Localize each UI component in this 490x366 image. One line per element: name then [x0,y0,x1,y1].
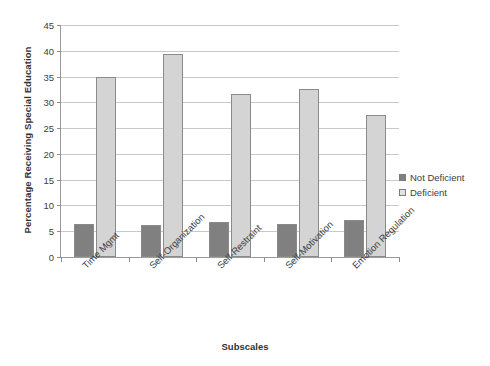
bar-chart-figure: Percentage Receiving Special Education 0… [0,0,490,366]
x-axis-tick-mark [399,257,400,262]
y-axis-tick-label: 30 [28,97,54,108]
y-axis-tick-label: 25 [28,123,54,134]
bar-group [264,25,332,257]
bars-layer [61,25,399,257]
x-axis-title: Subscales [0,341,490,352]
legend-item[interactable]: Not Deficient [399,170,485,185]
y-axis-tick-label: 20 [28,148,54,159]
y-axis-tick-label: 45 [28,20,54,31]
legend-label: Deficient [410,187,447,198]
y-axis-tick-label: 40 [28,45,54,56]
legend-label: Not Deficient [410,172,464,183]
y-axis-tick-label: 15 [28,174,54,185]
bar [163,54,183,257]
legend-swatch-icon [399,174,406,181]
bar-group [196,25,264,257]
y-axis-tick-label: 10 [28,200,54,211]
legend-item[interactable]: Deficient [399,185,485,200]
bar-group [61,25,129,257]
chart-legend: Not DeficientDeficient [399,170,485,200]
y-axis-tick-label: 0 [28,252,54,263]
x-axis-tick-labels: Time MgmtSelf-OrganizationSelf-Restraint… [60,259,398,339]
y-axis-tick-label: 35 [28,71,54,82]
y-axis-tick-labels: 051015202530354045 [28,18,54,264]
y-axis-tick-label: 5 [28,226,54,237]
legend-swatch-icon [399,189,406,196]
plot-area [60,25,399,258]
